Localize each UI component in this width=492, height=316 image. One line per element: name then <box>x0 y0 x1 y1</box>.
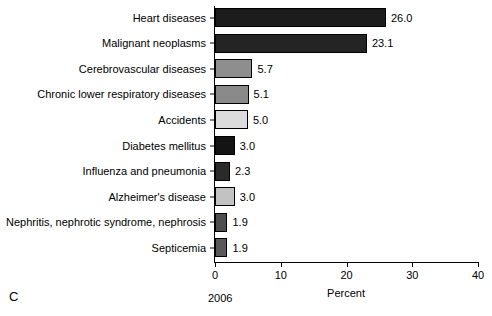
category-label: Accidents <box>158 114 206 126</box>
category-label: Chronic lower respiratory diseases <box>37 88 206 100</box>
bar[interactable] <box>215 59 252 78</box>
bar-row: Chronic lower respiratory diseases5.1 <box>215 85 478 104</box>
bar-value-label: 2.3 <box>235 166 250 177</box>
bar-value-label: 1.9 <box>232 242 247 253</box>
bar-value-label: 3.0 <box>240 191 255 202</box>
category-label: Cerebrovascular diseases <box>79 63 206 75</box>
x-axis-tick-label: 10 <box>275 269 287 281</box>
bar-value-label: 3.0 <box>240 140 255 151</box>
x-axis-tick <box>412 262 413 267</box>
category-label: Septicemia <box>152 242 206 254</box>
bar-row: Heart diseases26.0 <box>215 8 478 27</box>
category-label: Diabetes mellitus <box>122 140 206 152</box>
bar-row: Alzheimer's disease3.0 <box>215 187 478 206</box>
bar-row: Nephritis, nephrotic syndrome, nephrosis… <box>215 213 478 232</box>
bar-row: Septicemia1.9 <box>215 238 478 257</box>
x-axis-tick <box>215 262 216 267</box>
bar-value-label: 5.7 <box>257 63 272 74</box>
x-axis-tick-label: 30 <box>406 269 418 281</box>
bar-row: Accidents5.0 <box>215 110 478 129</box>
x-axis-tick <box>478 262 479 267</box>
bar-row: Diabetes mellitus3.0 <box>215 136 478 155</box>
bar-value-label: 5.0 <box>253 114 268 125</box>
bar[interactable] <box>215 110 248 129</box>
bar[interactable] <box>215 187 235 206</box>
bar[interactable] <box>215 213 227 232</box>
x-axis-tick-label: 0 <box>212 269 218 281</box>
bar-row: Malignant neoplasms23.1 <box>215 34 478 53</box>
x-axis-title: Percent <box>327 287 365 299</box>
bar[interactable] <box>215 34 367 53</box>
bar[interactable] <box>215 136 235 155</box>
category-label: Heart diseases <box>133 12 206 24</box>
x-axis-tick <box>281 262 282 267</box>
x-axis-tick-label: 20 <box>340 269 352 281</box>
bar[interactable] <box>215 238 227 257</box>
bar-chart-figure: Heart diseases26.0Malignant neoplasms23.… <box>0 0 492 316</box>
year-caption-label: 2006 <box>208 292 232 304</box>
category-label: Malignant neoplasms <box>102 37 206 49</box>
bar[interactable] <box>215 8 386 27</box>
bar-row: Influenza and pneumonia2.3 <box>215 162 478 181</box>
category-label: Alzheimer's disease <box>109 191 206 203</box>
bar-value-label: 1.9 <box>232 217 247 228</box>
bar[interactable] <box>215 162 230 181</box>
panel-letter-label: C <box>9 290 18 304</box>
bar-value-label: 5.1 <box>254 89 269 100</box>
x-axis-tick <box>347 262 348 267</box>
bar[interactable] <box>215 85 249 104</box>
plot-area: Heart diseases26.0Malignant neoplasms23.… <box>215 6 478 262</box>
bar-value-label: 23.1 <box>372 38 393 49</box>
bar-row: Cerebrovascular diseases5.7 <box>215 59 478 78</box>
category-label: Nephritis, nephrotic syndrome, nephrosis <box>6 216 206 228</box>
x-axis-tick-label: 40 <box>472 269 484 281</box>
category-label: Influenza and pneumonia <box>82 165 206 177</box>
bar-value-label: 26.0 <box>391 12 412 23</box>
